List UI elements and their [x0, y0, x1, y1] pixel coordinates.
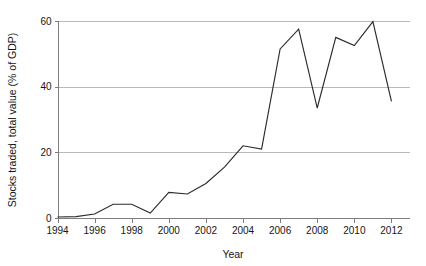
x-axis-title: Year	[222, 248, 244, 260]
x-tick-label-2006: 2006	[269, 225, 292, 236]
x-tick-label-2004: 2004	[232, 225, 255, 236]
y-tick-label-0: 0	[46, 213, 52, 224]
x-tick-label-2008: 2008	[306, 225, 329, 236]
x-tick-label-2010: 2010	[343, 225, 366, 236]
y-tick-label-40: 40	[40, 81, 52, 92]
x-tick-label-2000: 2000	[158, 225, 181, 236]
line-chart: 0204060 19941996199820002002200420062008…	[0, 0, 426, 266]
y-axis-title: Stocks traded, total value (% of GDP)	[6, 33, 18, 208]
x-tick-label-1994: 1994	[46, 225, 69, 236]
y-tick-label-20: 20	[40, 147, 52, 158]
x-tick-label-1996: 1996	[83, 225, 106, 236]
chart-container: 0204060 19941996199820002002200420062008…	[0, 0, 426, 266]
x-tick-label-2012: 2012	[380, 225, 403, 236]
x-tick-label-1998: 1998	[121, 225, 144, 236]
x-tick-label-2002: 2002	[195, 225, 218, 236]
y-tick-label-60: 60	[40, 16, 52, 27]
